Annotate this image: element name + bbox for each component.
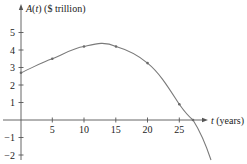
svg-text:−1: −1 <box>4 132 15 143</box>
svg-text:10: 10 <box>79 124 89 135</box>
svg-text:−2: −2 <box>4 150 15 161</box>
x-tick-labels: 5 10 15 20 25 <box>50 124 185 135</box>
svg-text:1: 1 <box>10 97 15 108</box>
x-axis-arrow-icon <box>202 118 208 122</box>
svg-text:20: 20 <box>143 124 153 135</box>
svg-text:4: 4 <box>10 45 15 56</box>
data-point-markers <box>20 45 195 121</box>
svg-text:25: 25 <box>174 124 184 135</box>
svg-text:5: 5 <box>50 124 55 135</box>
svg-text:5: 5 <box>10 27 15 38</box>
x-axis-title: t (years) <box>211 115 244 127</box>
series-curve <box>21 43 211 160</box>
svg-text:3: 3 <box>10 62 15 73</box>
y-axis-arrow-icon <box>19 4 23 10</box>
y-tick-labels: 5 4 3 2 1 −1 −2 <box>4 27 15 161</box>
chart: 5 4 3 2 1 −1 −2 5 10 15 20 25 A(t) ($ tr… <box>0 0 247 164</box>
svg-text:15: 15 <box>111 124 121 135</box>
svg-text:2: 2 <box>10 80 15 91</box>
y-axis-title: A(t) ($ trillion) <box>25 3 85 15</box>
